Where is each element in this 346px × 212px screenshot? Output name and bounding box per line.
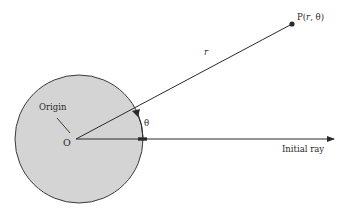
origin-name-label: Origin [39, 102, 67, 112]
angle-start-marker [138, 137, 147, 140]
point-p [289, 21, 294, 26]
point-label: P(r, θ) [297, 12, 324, 22]
radius-line [76, 24, 292, 139]
radius-label: r [204, 47, 209, 57]
angle-label: θ [144, 118, 149, 128]
origin-letter-label: O [63, 137, 71, 148]
initial-ray-label: Initial ray [282, 144, 324, 154]
polar-diagram: P(r, θ) r θ Origin O Initial ray [0, 0, 346, 212]
